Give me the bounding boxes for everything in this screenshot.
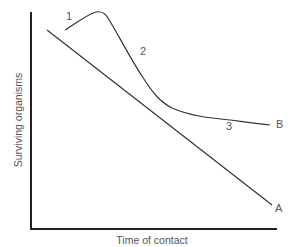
curve-b-label: B [276,118,283,130]
chart: 1 2 3 B A Time of contact Surviving orga… [0,0,299,247]
x-axis-title: Time of contact [116,234,187,246]
curve-a [47,30,272,205]
phase-2-label: 2 [140,45,146,57]
curve-a-label: A [275,202,283,214]
phase-3-label: 3 [226,120,232,132]
phase-1-label: 1 [66,10,72,22]
y-axis-title: Surviving organisms [12,73,24,168]
